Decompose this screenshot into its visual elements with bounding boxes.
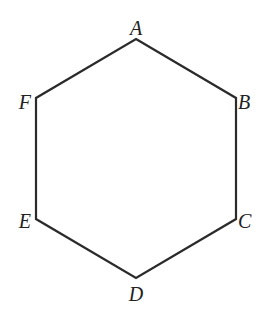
hexagon-outline xyxy=(36,39,236,278)
vertex-label-f: F xyxy=(18,91,32,113)
vertex-label-b: B xyxy=(238,91,250,113)
vertex-label-d: D xyxy=(128,283,144,305)
vertex-label-c: C xyxy=(238,210,252,232)
hexagon-diagram: A B C D E F xyxy=(0,0,274,314)
vertex-label-a: A xyxy=(128,17,143,39)
vertex-label-e: E xyxy=(18,210,31,232)
hexagon-svg: A B C D E F xyxy=(0,0,274,314)
vertex-labels: A B C D E F xyxy=(18,17,252,305)
